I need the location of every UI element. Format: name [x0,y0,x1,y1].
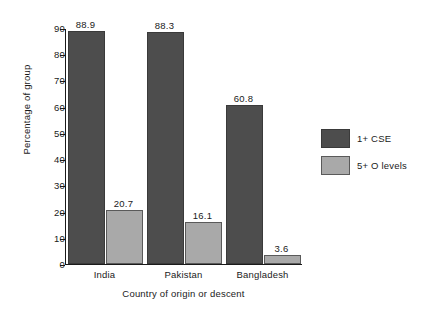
legend-label: 1+ CSE [357,133,391,144]
bar-value-label: 16.1 [178,210,227,221]
bar [68,31,105,264]
bar [147,32,184,264]
legend-label: 5+ O levels [357,160,407,171]
chart-legend: 1+ CSE 5+ O levels [321,126,407,180]
y-axis-tick-label: 10 [26,234,65,244]
x-axis-category-label: Bangladesh [213,269,312,281]
bar-value-label: 3.6 [257,243,306,254]
y-axis-tick-label-text: 40 [35,155,65,165]
y-axis-tick-label: 70 [26,76,65,86]
bar-value-label: 20.7 [99,198,148,209]
legend-item-1-cse: 1+ CSE [321,126,407,150]
y-axis-tick-label-text: 20 [35,208,65,218]
y-axis-tick-label: 60 [26,103,65,113]
y-axis-tick-label-text: 80 [35,50,65,60]
y-axis-tick-label: 30 [26,181,65,191]
legend-swatch-icon-light [321,156,350,175]
bar-value-label: 88.9 [61,19,110,30]
bar-value-label: 88.3 [140,20,189,31]
legend-item-5-o-levels: 5+ O levels [321,153,407,177]
y-axis-tick-label: 90 [26,24,65,34]
bar-value-label: 60.8 [219,93,268,104]
y-axis-tick-label: 80 [26,50,65,60]
y-axis-tick-label-text: 10 [35,234,65,244]
bar [264,255,301,264]
plot-area [65,29,302,265]
bar [185,222,222,264]
legend-swatch-icon-dark [321,129,350,148]
y-axis-tick-label-text: 70 [35,76,65,86]
y-axis-tick-label: 40 [26,155,65,165]
x-axis-title: Country of origin or descent [65,288,302,299]
y-axis-tick-label: 20 [26,208,65,218]
y-axis-tick-label-text: 50 [35,129,65,139]
bar-chart-figure: Percentage of group 0102030405060708090 … [0,0,433,311]
y-axis-tick-label-text: 30 [35,181,65,191]
y-axis-tick-label: 50 [26,129,65,139]
bar [226,105,263,264]
y-axis-tick-label-text: 60 [35,103,65,113]
bar [106,210,143,264]
